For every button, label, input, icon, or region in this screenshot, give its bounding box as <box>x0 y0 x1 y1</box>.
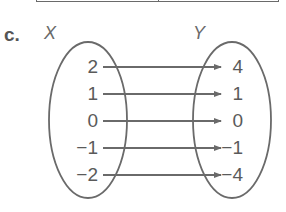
domain-value: −1 <box>64 138 98 158</box>
range-value: −4 <box>209 165 243 185</box>
domain-value: −2 <box>64 165 98 185</box>
range-value: 0 <box>209 111 243 131</box>
range-value: −1 <box>209 138 243 158</box>
domain-value: 0 <box>64 111 98 131</box>
domain-value: 1 <box>64 84 98 104</box>
range-value: 1 <box>209 84 243 104</box>
mapping-diagram <box>0 0 286 212</box>
mapping-arrows <box>103 67 221 175</box>
domain-value: 2 <box>64 57 98 77</box>
range-value: 4 <box>209 57 243 77</box>
